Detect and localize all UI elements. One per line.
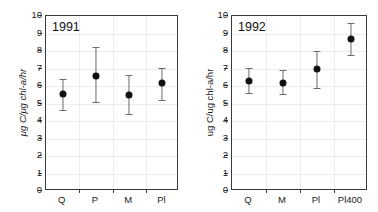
y-tick-label: 10 [212, 10, 228, 20]
x-tick-label: M [278, 194, 286, 205]
y-tick-label: 3 [212, 133, 228, 143]
gridline-vertical [113, 16, 114, 189]
gridline-horizontal [46, 156, 177, 157]
x-tick-label: P [92, 194, 98, 205]
gridline-vertical [266, 16, 267, 189]
data-point-marker [280, 79, 287, 86]
y-axis-ticks-right: 012345678910 [210, 15, 228, 190]
error-bar-cap-upper [314, 51, 321, 52]
y-tick-label: 7 [212, 63, 228, 73]
data-point-marker [314, 66, 321, 73]
error-bar-cap-upper [59, 79, 66, 80]
error-bar-cap-upper [280, 70, 287, 71]
x-tick-mark [266, 189, 267, 193]
gridline-horizontal [46, 86, 177, 87]
x-tick-label: Pl [312, 194, 320, 205]
x-tick-label: Q [244, 194, 251, 205]
gridline-horizontal [232, 156, 366, 157]
panel-1991: μg C/μg chl-a/hr 012345678910 1991 QPMPl [0, 0, 189, 212]
gridline-vertical [79, 16, 80, 189]
gridline-vertical [300, 16, 301, 189]
plot-area-right [231, 15, 367, 190]
data-point-marker [126, 91, 133, 98]
x-tick-label: Q [58, 194, 65, 205]
data-point-marker [159, 80, 166, 87]
error-bar-cap-lower [348, 55, 355, 56]
gridline-horizontal [46, 174, 177, 175]
gridline-horizontal [232, 139, 366, 140]
y-axis-ticks-left: 012345678910 [24, 15, 42, 190]
x-tick-mark [79, 189, 80, 193]
y-tick-label: 6 [26, 80, 42, 90]
error-bar-cap-upper [246, 68, 253, 69]
error-bar-cap-lower [92, 102, 99, 103]
error-bar-cap-lower [59, 110, 66, 111]
x-tick-mark [146, 189, 147, 193]
gridline-horizontal [46, 51, 177, 52]
y-tick-label: 4 [26, 115, 42, 125]
error-bar-cap-lower [280, 94, 287, 95]
panel-1992: ug C/ug chl-a/hr 012345678910 1992 QMPlP… [189, 0, 378, 212]
y-tick-label: 10 [26, 10, 42, 20]
error-bar-cap-lower [246, 93, 253, 94]
y-tick-label: 5 [26, 98, 42, 108]
data-point-marker [92, 72, 99, 79]
gridline-horizontal [46, 139, 177, 140]
error-bar-cap-upper [92, 47, 99, 48]
y-tick-label: 1 [212, 168, 228, 178]
error-bar-cap-upper [126, 75, 133, 76]
figure-two-panel-errorbar-chart: μg C/μg chl-a/hr 012345678910 1991 QPMPl… [0, 0, 378, 212]
y-tick-label: 9 [26, 28, 42, 38]
y-tick-label: 9 [212, 28, 228, 38]
y-tick-label: 8 [212, 45, 228, 55]
plot-area-left [45, 15, 178, 190]
y-tick-label: 7 [26, 63, 42, 73]
x-tick-mark [300, 189, 301, 193]
x-tick-mark [334, 189, 335, 193]
gridline-horizontal [46, 69, 177, 70]
y-tick-label: 1 [26, 168, 42, 178]
y-tick-label: 6 [212, 80, 228, 90]
gridline-horizontal [232, 86, 366, 87]
error-bar-cap-lower [159, 100, 166, 101]
y-tick-label: 3 [26, 133, 42, 143]
gridline-horizontal [232, 174, 366, 175]
y-tick-label: 2 [212, 150, 228, 160]
error-bar-cap-lower [126, 114, 133, 115]
gridline-horizontal [46, 121, 177, 122]
y-tick-label: 0 [26, 185, 42, 195]
error-bar-cap-upper [348, 23, 355, 24]
data-point-marker [348, 35, 355, 42]
x-tick-label: Pl400 [338, 194, 362, 205]
y-tick-label: 5 [212, 98, 228, 108]
data-point-marker [59, 90, 66, 97]
panel-title-1992: 1992 [238, 20, 266, 34]
gridline-horizontal [46, 104, 177, 105]
panel-title-1991: 1991 [52, 20, 80, 34]
gridline-horizontal [232, 104, 366, 105]
gridline-vertical [334, 16, 335, 189]
x-tick-mark [113, 189, 114, 193]
y-tick-label: 0 [212, 185, 228, 195]
data-point-marker [246, 77, 253, 84]
y-tick-label: 2 [26, 150, 42, 160]
gridline-horizontal [232, 121, 366, 122]
x-tick-label: M [124, 194, 132, 205]
error-bar-cap-lower [314, 88, 321, 89]
gridline-vertical [146, 16, 147, 189]
x-tick-label: Pl [157, 194, 165, 205]
gridline-horizontal [232, 51, 366, 52]
y-tick-label: 8 [26, 45, 42, 55]
y-tick-label: 4 [212, 115, 228, 125]
error-bar-cap-upper [159, 68, 166, 69]
